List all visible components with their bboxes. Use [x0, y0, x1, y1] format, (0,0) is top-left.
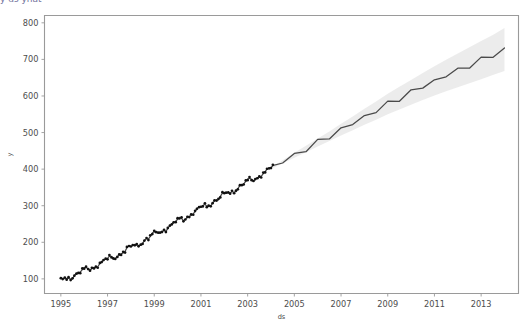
history-point: [71, 277, 74, 280]
history-point: [166, 227, 169, 230]
x-tick-label: 1997: [97, 299, 118, 309]
history-point: [89, 269, 92, 272]
history-point: [264, 171, 267, 174]
history-point: [106, 258, 109, 261]
history-point: [229, 192, 232, 195]
history-point: [143, 239, 146, 242]
y-tick-label: 100: [23, 274, 39, 284]
history-point: [184, 218, 187, 221]
forecast-line-history-segment: [61, 166, 273, 279]
history-point: [174, 221, 177, 224]
history-point: [180, 216, 183, 219]
history-point: [96, 266, 99, 269]
history-point: [260, 176, 263, 179]
y-tick-label: 600: [23, 91, 39, 101]
history-point: [65, 278, 68, 281]
x-tick-label: 1999: [144, 299, 165, 309]
y-tick-label: 400: [23, 164, 39, 174]
history-point: [192, 213, 195, 216]
history-point: [67, 276, 70, 279]
history-point: [236, 188, 239, 191]
history-point: [165, 231, 168, 234]
history-point: [79, 272, 82, 275]
history-point: [120, 254, 123, 257]
x-tick-label: 2007: [331, 299, 352, 309]
history-point: [63, 276, 66, 279]
y-tick-label: 700: [23, 54, 39, 64]
history-point: [209, 205, 212, 208]
history-point: [73, 274, 76, 277]
history-point: [170, 223, 173, 226]
x-tick-label: 2013: [471, 299, 492, 309]
history-point: [100, 261, 103, 264]
x-tick-label: 2009: [377, 299, 398, 309]
history-point: [151, 233, 154, 236]
x-tick-label: 2005: [284, 299, 305, 309]
uncertainty-band: [273, 28, 504, 168]
y-tick-label: 300: [23, 201, 39, 211]
x-tick-label: 1995: [50, 299, 71, 309]
history-point: [270, 167, 273, 170]
x-axis-title: ds: [278, 313, 286, 321]
history-point: [219, 196, 222, 199]
history-point: [233, 192, 236, 195]
history-point: [85, 265, 88, 268]
x-tick-label: 2011: [424, 299, 445, 309]
history-point: [163, 229, 166, 232]
y-tick-label: 800: [23, 18, 39, 28]
history-point: [246, 179, 249, 182]
y-axis-title: y: [6, 152, 14, 156]
history-point: [124, 251, 127, 254]
history-point: [83, 267, 86, 270]
history-point: [114, 258, 117, 261]
x-tick-label: 2001: [191, 299, 212, 309]
history-point: [141, 243, 144, 246]
y-tick-label: 200: [23, 237, 39, 247]
uncertainty-band-group: [273, 28, 504, 168]
forecast-figure: y ds yhat 100200300400500600700800199519…: [0, 0, 532, 331]
history-point: [188, 216, 191, 219]
history-point: [204, 202, 207, 205]
history-point: [211, 202, 214, 205]
x-tick-label: 2003: [237, 299, 258, 309]
history-point: [242, 183, 245, 186]
history-point: [272, 163, 275, 166]
history-point: [248, 176, 251, 179]
history-point: [161, 231, 164, 234]
axes-group: 1002003004005006007008001995199719992001…: [6, 16, 519, 321]
history-points-group: [59, 163, 274, 281]
history-point: [108, 254, 111, 257]
history-point: [116, 256, 119, 259]
history-point: [231, 189, 234, 192]
history-point: [147, 239, 150, 242]
history-point: [194, 210, 197, 213]
plot-frame: [45, 16, 519, 294]
history-point: [145, 237, 148, 240]
forecast-plot: 1002003004005006007008001995199719992001…: [0, 0, 532, 331]
history-point: [135, 243, 138, 246]
history-point: [201, 205, 204, 208]
y-tick-label: 500: [23, 128, 39, 138]
